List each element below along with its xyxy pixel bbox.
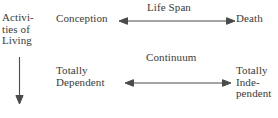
continuum-arrow — [125, 76, 231, 90]
death-label: Death — [236, 13, 263, 25]
life-span-arrow — [119, 14, 235, 28]
life-span-continuum-diagram: ' ' ' ' ' Activi- ties of Living Life Sp… — [0, 0, 278, 118]
life-span-label: Life Span — [147, 2, 191, 14]
conception-label: Conception — [56, 13, 108, 25]
totally-independent-label: Totally Inde- pendent — [236, 65, 272, 100]
scan-artifact-text: ' ' ' ' ' — [56, 0, 120, 2]
activities-of-living-arrow — [12, 57, 28, 105]
continuum-label: Continuum — [146, 52, 196, 64]
activities-of-living-label: Activi- ties of Living — [2, 12, 34, 47]
totally-dependent-label: Totally Dependent — [56, 65, 105, 88]
